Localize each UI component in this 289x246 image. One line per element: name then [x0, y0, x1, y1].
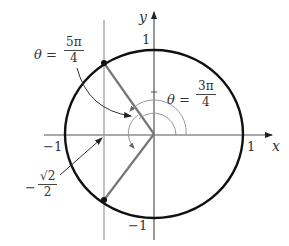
- theta-5pi4-lhs: θ =: [34, 47, 57, 62]
- neg-sqrt2-over-2-sign: −: [25, 180, 36, 195]
- theta-3pi4-numerator: 3π: [196, 80, 216, 95]
- upper-point: [101, 60, 107, 66]
- x-tick-label-1: 1: [247, 140, 255, 153]
- y-axis-label: y: [139, 10, 147, 24]
- x-axis-label: x: [272, 139, 280, 153]
- neg-sqrt2-over-2-fraction: √2 2: [38, 170, 57, 198]
- x-tick-label-neg1: −1: [43, 140, 62, 153]
- theta-3pi4-lhs: θ =: [167, 92, 190, 107]
- theta-3pi4-denominator: 4: [202, 95, 210, 109]
- radius-5pi4-upper: [104, 63, 154, 134]
- unit-circle-diagram: y x 1 −1 −1 1 θ = 5π 4 θ = 3π 4 − √2 2: [0, 0, 289, 246]
- lower-point: [101, 197, 107, 203]
- y-tick-label-neg1: −1: [128, 219, 147, 232]
- theta-3pi4-fraction: 3π 4: [196, 80, 216, 108]
- arc-3pi4-inner: [139, 113, 176, 135]
- arc-5pi4: [128, 115, 138, 148]
- y-tick-label-1: 1: [142, 33, 150, 46]
- theta-5pi4-fraction: 5π 4: [64, 36, 84, 64]
- theta-5pi4-numerator: 5π: [64, 36, 84, 51]
- sqrt2-denominator: 2: [44, 185, 52, 199]
- theta-5pi4-denominator: 4: [70, 51, 78, 65]
- radius-lower: [104, 134, 154, 200]
- sqrt2-numerator: √2: [38, 170, 57, 185]
